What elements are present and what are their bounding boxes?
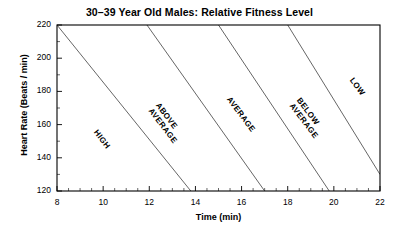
x-tick-label: 12 (137, 197, 161, 207)
y-tick-label: 180 (21, 85, 51, 95)
x-axis-title: Time (min) (57, 212, 380, 222)
plot-background (57, 25, 380, 191)
x-tick-label: 8 (45, 197, 69, 207)
x-tick-label: 18 (276, 197, 300, 207)
x-tick-label: 16 (230, 197, 254, 207)
x-tick-label: 20 (322, 197, 346, 207)
fitness-level-chart: 30–39 Year Old Males: Relative Fitness L… (0, 0, 399, 232)
y-tick-label: 140 (21, 152, 51, 162)
x-tick-label: 10 (91, 197, 115, 207)
x-tick-label: 14 (183, 197, 207, 207)
y-tick-label: 220 (21, 19, 51, 29)
x-tick-label: 22 (368, 197, 392, 207)
y-tick-label: 120 (21, 185, 51, 195)
y-tick-label: 160 (21, 119, 51, 129)
y-tick-label: 200 (21, 52, 51, 62)
